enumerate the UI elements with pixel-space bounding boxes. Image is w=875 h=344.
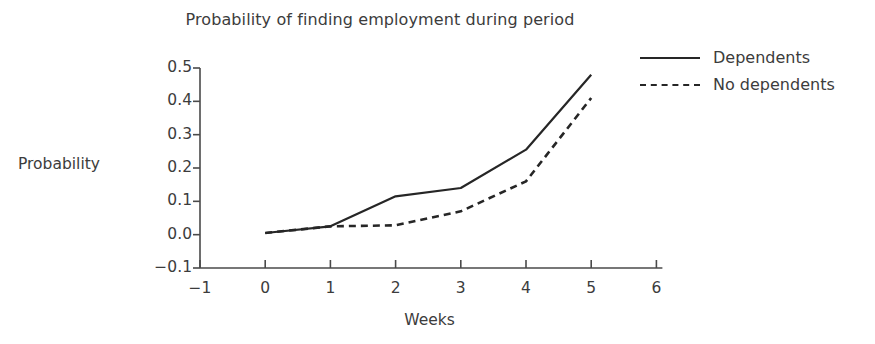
legend-item-dependents: Dependents — [640, 44, 835, 71]
series-line-no-dependents — [265, 98, 591, 233]
legend-item-no-dependents: No dependents — [640, 71, 835, 98]
legend-label: No dependents — [713, 75, 835, 94]
series-line-dependents — [265, 75, 591, 233]
chart-legend: Dependents No dependents — [640, 44, 835, 98]
legend-line-dashed-icon — [640, 79, 700, 91]
chart-figure: Probability of finding employment during… — [0, 0, 875, 344]
legend-line-solid-icon — [640, 52, 700, 64]
legend-label: Dependents — [713, 48, 810, 67]
